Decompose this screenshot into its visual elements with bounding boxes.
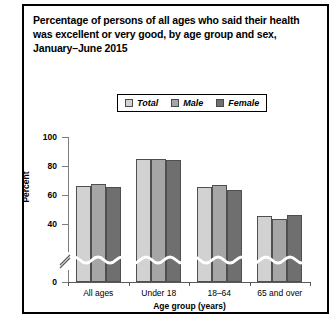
x-tick-label: 65 and over [250,288,311,298]
legend-label-total: Total [137,98,158,108]
bar-male-2 [212,185,227,282]
bar-female-1 [166,160,181,282]
x-tick-label: Under 18 [129,288,190,298]
y-tick-label: 40 [33,220,57,228]
bar-total-0 [76,186,91,282]
legend-item-total[interactable]: Total [125,98,158,108]
x-tick-label: All ages [68,288,129,298]
legend-label-male: Male [183,98,203,108]
x-tick-mark [129,282,130,286]
legend-swatch-total [125,99,133,107]
x-tick-mark [310,282,311,286]
legend-item-male[interactable]: Male [171,98,203,108]
y-tick-label: 100 [33,133,57,141]
chart-title-line-3: January–June 2015 [33,41,313,55]
x-tick-mark [68,282,69,286]
bar-male-1 [151,159,166,282]
axis-break-icon [58,252,72,270]
legend-label-female: Female [228,98,259,108]
bar-male-0 [91,184,106,282]
legend-swatch-male [171,99,179,107]
plot-area [68,137,310,282]
bar-total-1 [136,159,151,282]
chart-title: Percentage of persons of all ages who sa… [33,13,313,55]
x-tick-label: 18–64 [189,288,250,298]
bar-total-2 [197,187,212,282]
bar-female-3 [287,215,302,282]
bar-male-3 [272,219,287,282]
y-tick-label: 80 [33,162,57,170]
chart-title-line-1: Percentage of persons of all ages who sa… [33,13,313,27]
x-axis-title: Age group (years) [68,301,311,311]
bar-female-0 [106,187,121,282]
bar-female-2 [227,190,242,283]
y-tick-label: 0 [33,278,57,286]
x-tick-mark [189,282,190,286]
legend-swatch-female [216,99,224,107]
legend-item-female[interactable]: Female [216,98,259,108]
y-axis-title: Percent [21,157,31,217]
figure: Percentage of persons of all ages who sa… [0,0,336,320]
bar-total-3 [257,216,272,282]
chart-legend: Total Male Female [117,94,267,112]
x-tick-mark [250,282,251,286]
y-tick-label: 60 [33,191,57,199]
chart-title-line-2: was excellent or very good, by age group… [33,27,313,41]
